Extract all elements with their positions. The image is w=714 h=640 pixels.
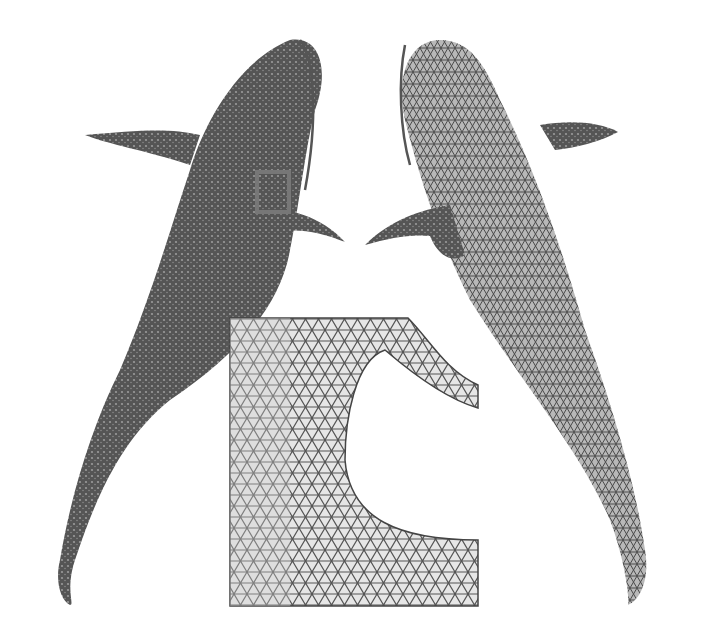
figure [0,0,714,640]
inset-zoom-mesh [230,318,478,606]
